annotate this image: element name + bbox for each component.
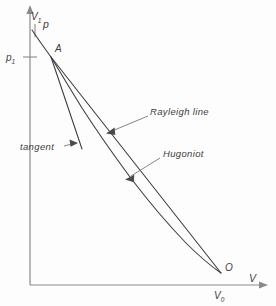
y-axis-label: p — [42, 18, 49, 30]
tangent-line — [51, 57, 82, 149]
rayleigh-line — [51, 57, 221, 273]
point-o-label: O — [225, 262, 233, 273]
v1-subscript: 1 — [38, 17, 42, 24]
hugoniot-annotation: Hugoniot — [163, 148, 204, 159]
v1-tick-label: V1 — [31, 11, 42, 24]
rayleigh-line-annotation: Rayleigh line — [150, 106, 209, 117]
tangent-leader-arrowhead — [70, 140, 79, 147]
pv-diagram-figure: p V p1 V1 V0 A O Rayleigh line Hugoniot … — [0, 0, 276, 306]
x-axis-label: V — [249, 272, 257, 284]
point-a-label: A — [54, 43, 62, 54]
rayleigh-leader-line — [112, 116, 148, 131]
v0-subscript: 0 — [221, 296, 225, 303]
x-axis-arrowhead — [259, 281, 268, 288]
p1-subscript: 1 — [12, 58, 16, 65]
plot-canvas: p V p1 V1 V0 A O Rayleigh line Hugoniot … — [0, 0, 276, 306]
hugoniot-leader-line — [131, 158, 160, 176]
v0-tick-label: V0 — [214, 290, 225, 303]
p1-tick-label: p1 — [5, 52, 16, 65]
tangent-annotation: tangent — [20, 141, 54, 152]
